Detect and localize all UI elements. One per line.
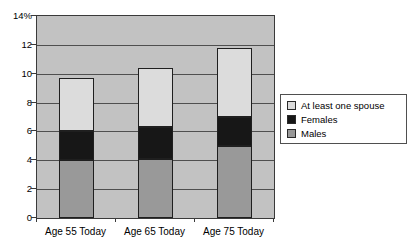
y-axis-label: 10 <box>2 68 32 79</box>
y-axis-tick <box>31 188 36 189</box>
y-axis-label: 8 <box>2 97 32 108</box>
bar-segment-at-least-one-spouse <box>59 78 94 131</box>
x-axis-tick <box>115 218 116 222</box>
y-axis-tick <box>31 73 36 74</box>
y-axis-label: 6 <box>2 125 32 136</box>
plot-area <box>36 15 275 219</box>
y-axis-tick <box>31 44 36 45</box>
bar-segment-females <box>217 117 252 146</box>
y-axis-label: 4 <box>2 154 32 165</box>
bar-segment-males <box>59 160 94 218</box>
y-axis-label: 0 <box>2 212 32 223</box>
bar-segment-females <box>59 131 94 160</box>
legend-swatch-males <box>287 129 296 138</box>
y-axis-label: 14% <box>2 10 32 21</box>
legend-label: At least one spouse <box>301 99 384 112</box>
bar-segment-males <box>138 159 173 218</box>
x-axis-tick <box>194 218 195 222</box>
y-axis-tick <box>31 159 36 160</box>
y-axis-label: 12 <box>2 39 32 50</box>
bar-segment-females <box>138 127 173 159</box>
x-axis-tick <box>273 218 274 222</box>
legend-item: Females <box>287 112 406 126</box>
x-axis-category-label: Age 75 Today <box>194 226 273 238</box>
gridline <box>37 45 274 46</box>
x-axis-category-label: Age 65 Today <box>115 226 194 238</box>
legend-item: At least one spouse <box>287 98 406 112</box>
y-axis-label: 2 <box>2 183 32 194</box>
x-axis-category-label: Age 55 Today <box>36 226 115 238</box>
y-axis-tick <box>31 130 36 131</box>
stacked-bar-chart: 02468101214% Age 55 TodayAge 65 TodayAge… <box>0 0 415 250</box>
legend-item: Males <box>287 126 406 140</box>
y-axis-tick <box>31 15 36 16</box>
bar-segment-at-least-one-spouse <box>138 68 173 127</box>
x-axis-tick <box>36 218 37 222</box>
legend-label: Males <box>301 127 326 140</box>
legend-label: Females <box>301 113 337 126</box>
legend-swatch-at-least-one-spouse <box>287 101 296 110</box>
bar-segment-males <box>217 146 252 218</box>
y-axis-tick <box>31 102 36 103</box>
bar-segment-at-least-one-spouse <box>217 48 252 117</box>
legend-swatch-females <box>287 115 296 124</box>
legend: At least one spouseFemalesMales <box>280 94 407 144</box>
